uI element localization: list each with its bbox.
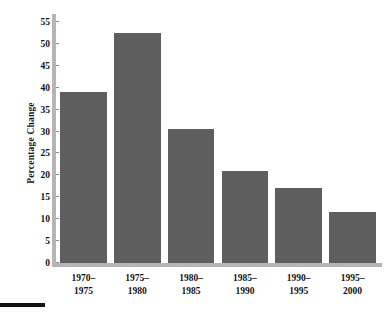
- y-tick-label: 25: [41, 148, 51, 158]
- x-tick-label: 1985–1990: [222, 272, 269, 297]
- bar: [329, 212, 376, 263]
- y-tick-mark: 40: [56, 87, 59, 88]
- x-tick-label: 1990–1995: [275, 272, 322, 297]
- x-tick-label-line: 1980–: [168, 272, 215, 285]
- y-tick-label: 0: [45, 258, 50, 268]
- x-tick-label: 1975–1980: [114, 272, 161, 297]
- y-tick-mark: 20: [56, 174, 59, 175]
- y-tick-label: 50: [41, 39, 51, 49]
- y-tick-label: 55: [41, 17, 51, 27]
- y-tick-label: 30: [41, 127, 51, 137]
- x-tick-label-line: 1990–: [275, 272, 322, 285]
- x-tick-label-line: 1975: [60, 285, 107, 298]
- y-tick-label: 20: [41, 170, 51, 180]
- x-tick-label-line: 1995: [275, 285, 322, 298]
- x-tick-label-line: 1980: [114, 285, 161, 298]
- x-axis-spine: [52, 263, 382, 267]
- y-tick-label: 45: [41, 61, 51, 71]
- plot-area: 0510152025303540455055 1970–19751975–198…: [52, 14, 382, 266]
- y-tick-mark: 35: [56, 109, 59, 110]
- y-tick-label: 10: [41, 214, 51, 224]
- x-tick-label: 1970–1975: [60, 272, 107, 297]
- y-tick-mark: 45: [56, 65, 59, 66]
- y-tick-label: 40: [41, 83, 51, 93]
- bottom-rule: [0, 303, 45, 307]
- y-axis-title: Percentage Change: [26, 68, 36, 218]
- y-tick-mark: 15: [56, 196, 59, 197]
- y-axis-spine: [52, 14, 56, 266]
- y-tick-mark: 50: [56, 43, 59, 44]
- y-tick-mark: 30: [56, 131, 59, 132]
- x-tick-label-line: 1975–: [114, 272, 161, 285]
- y-tick-mark: 10: [56, 218, 59, 219]
- bar: [168, 129, 215, 263]
- y-tick-mark: 5: [56, 240, 59, 241]
- y-tick-mark: 25: [56, 152, 59, 153]
- x-tick-label-line: 1990: [222, 285, 269, 298]
- y-tick-mark: 55: [56, 21, 59, 22]
- x-tick-label-line: 2000: [329, 285, 376, 298]
- bar: [114, 33, 161, 263]
- y-tick-mark: 0: [56, 262, 59, 263]
- bar: [60, 92, 107, 263]
- x-tick-label-line: 1995–: [329, 272, 376, 285]
- x-tick-label: 1980–1985: [168, 272, 215, 297]
- y-tick-label: 35: [41, 105, 51, 115]
- bar-chart-figure: Percentage Change 0510152025303540455055…: [0, 0, 388, 312]
- bar: [222, 171, 269, 263]
- x-tick-label-line: 1970–: [60, 272, 107, 285]
- x-tick-label: 1995–2000: [329, 272, 376, 297]
- bar: [275, 188, 322, 263]
- x-tick-label-line: 1985–: [222, 272, 269, 285]
- y-tick-label: 5: [45, 236, 50, 246]
- y-tick-label: 15: [41, 192, 51, 202]
- x-tick-label-line: 1985: [168, 285, 215, 298]
